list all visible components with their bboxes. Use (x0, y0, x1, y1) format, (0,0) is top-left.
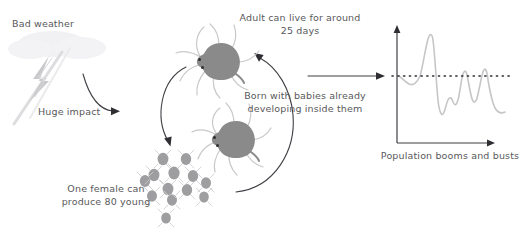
label-adult-lifespan-line2: 25 days (220, 25, 380, 38)
straight-arrow-to-chart (308, 72, 385, 79)
label-one-female-line2: produce 80 young (56, 196, 156, 209)
label-bad-weather: Bad weather (12, 18, 74, 31)
storm-cloud-icon (8, 31, 106, 59)
label-born-pregnant-line1: Born with babies already (239, 90, 371, 103)
curved-arrow-cycle-right (236, 53, 293, 192)
label-born-pregnant-line2: developing inside them (239, 103, 371, 116)
label-one-female-line1: One female can (56, 183, 156, 196)
label-adult-lifespan-line1: Adult can live for around (220, 12, 380, 25)
chart-y-axis (394, 25, 401, 143)
chart-caption: Population booms and busts (380, 150, 520, 163)
population-chart (392, 25, 513, 146)
diagram-canvas: Bad weather Huge impact Adult can live f… (0, 0, 523, 231)
chart-x-axis (397, 140, 495, 147)
curved-arrow-cycle-left (161, 67, 186, 147)
chart-series-population (399, 35, 505, 115)
label-huge-impact: Huge impact (38, 106, 100, 119)
